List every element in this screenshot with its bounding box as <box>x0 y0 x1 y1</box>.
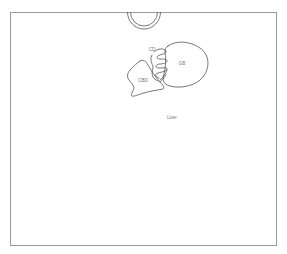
label-gallbladder: GB <box>179 62 186 67</box>
label-liver: Liver <box>167 116 177 121</box>
label-cystic-duct: CD <box>149 48 156 53</box>
label-common-bile-duct: CBD <box>138 79 148 84</box>
anatomy-diagram <box>0 0 287 254</box>
diagram-frame <box>11 13 277 246</box>
